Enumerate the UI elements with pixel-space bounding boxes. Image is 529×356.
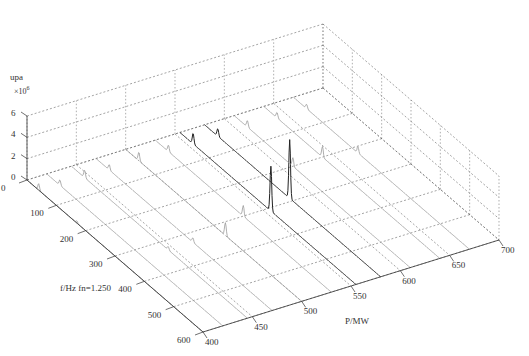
tick-label: 0 xyxy=(11,172,16,182)
tick xyxy=(166,307,174,310)
grid-line xyxy=(175,134,351,286)
tick xyxy=(78,231,86,234)
ridge-line xyxy=(47,174,223,326)
tick xyxy=(21,176,27,180)
tick xyxy=(21,112,27,116)
tick xyxy=(21,133,27,137)
tick xyxy=(195,332,203,335)
tick-label: 600 xyxy=(402,276,416,286)
tick xyxy=(48,205,56,208)
grid-line xyxy=(76,165,252,317)
tick-label: 6 xyxy=(11,108,16,118)
ridge-line xyxy=(155,140,331,292)
waterfall-chart xyxy=(0,0,529,356)
tick-label: 300 xyxy=(89,259,103,269)
ridge-line xyxy=(264,106,440,258)
tick xyxy=(107,256,115,259)
tick-label: 550 xyxy=(353,291,367,301)
grid-line xyxy=(274,103,450,255)
ridge-line xyxy=(205,125,381,277)
ridge-line xyxy=(71,166,247,318)
tick-label: 500 xyxy=(304,306,318,316)
tick-label: 650 xyxy=(452,260,466,270)
tick xyxy=(136,281,144,284)
y-axis-label: P/MW xyxy=(345,316,369,326)
tick-label: 600 xyxy=(177,335,191,345)
tick-label: 100 xyxy=(30,208,44,218)
tick xyxy=(21,155,27,159)
grid-line xyxy=(224,119,400,271)
ridge-line xyxy=(180,133,356,285)
ridge-line xyxy=(126,149,302,301)
tick-label: 700 xyxy=(501,245,515,255)
z-axis-label: upa xyxy=(10,72,23,82)
z-multiplier: ×106 xyxy=(14,85,30,96)
tick-label: 200 xyxy=(60,234,74,244)
tick-label: 4 xyxy=(11,129,16,139)
x-axis-label: f/Hz fn=1.250 xyxy=(60,283,111,293)
tick-label: 450 xyxy=(254,322,268,332)
tick-label: 2 xyxy=(11,151,16,161)
tick-label: 400 xyxy=(205,337,219,347)
tick xyxy=(19,180,27,183)
tick-label: 0 xyxy=(1,183,6,193)
tick-label: 500 xyxy=(148,310,162,320)
ridge-line xyxy=(234,116,410,268)
tick-label: 400 xyxy=(118,284,132,294)
